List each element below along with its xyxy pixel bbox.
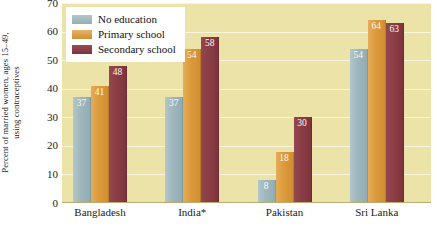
bar: 37: [73, 97, 91, 203]
bar-value-label: 63: [386, 25, 403, 35]
bar-value-label: 41: [91, 88, 108, 98]
legend-item-primary-school: Primary school: [72, 27, 176, 42]
bar: 54: [183, 49, 201, 203]
y-axis-title-container: Percent of married women, ages 15–49, us…: [0, 0, 28, 210]
bar-value-label: 37: [165, 99, 182, 109]
y-axis-title: Percent of married women, ages 15–49, us…: [0, 0, 22, 205]
y-axis-tick-label: 30: [32, 112, 58, 123]
legend-swatch-icon-secondary-school: [72, 45, 92, 54]
y-axis-tick-label: 60: [32, 26, 58, 37]
bar-value-label: 18: [276, 154, 293, 164]
x-axis-label: Pakistan: [235, 206, 335, 218]
bar: 64: [368, 20, 386, 203]
y-axis-tick-labels: 010203040506070: [28, 0, 58, 210]
legend-label-primary-school: Primary school: [98, 29, 165, 40]
bar: 48: [109, 66, 127, 203]
x-axis-label: Bangladesh: [50, 206, 150, 218]
legend-label-secondary-school: Secondary school: [98, 44, 176, 55]
y-axis-title-line-1: Percent of married women, ages 15–49,: [0, 0, 11, 205]
y-axis-tick-label: 20: [32, 140, 58, 151]
y-axis-tick-label: 50: [32, 55, 58, 66]
bar-value-label: 8: [258, 182, 275, 192]
bar-value-label: 37: [73, 99, 90, 109]
x-axis-category-labels: BangladeshIndia*PakistanSri Lanka: [62, 206, 431, 226]
bar: 8: [258, 180, 276, 203]
y-axis-tick-label: 70: [32, 0, 58, 9]
bar: 30: [294, 117, 312, 203]
bar: 41: [91, 86, 109, 203]
bar: 54: [350, 49, 368, 203]
bar-value-label: 30: [294, 119, 311, 129]
legend-swatch-icon-primary-school: [72, 30, 92, 39]
legend-swatch-icon-no-education: [72, 15, 92, 24]
bar-value-label: 54: [183, 51, 200, 61]
bar-value-label: 48: [109, 68, 126, 78]
bar-chart: Percent of married women, ages 15–49, us…: [0, 0, 437, 227]
gridline: [62, 3, 431, 4]
bar-value-label: 54: [350, 51, 367, 61]
y-axis-title-line-2: using contraceptives: [11, 0, 22, 205]
legend-item-no-education: No education: [72, 12, 176, 27]
bar: 63: [386, 23, 404, 203]
x-axis-label: Sri Lanka: [327, 206, 427, 218]
chart-legend: No education Primary school Secondary sc…: [66, 7, 185, 62]
x-axis-label: India*: [142, 206, 242, 218]
bar-value-label: 58: [201, 39, 218, 49]
bar-value-label: 64: [368, 22, 385, 32]
bar: 58: [201, 37, 219, 203]
bar: 37: [165, 97, 183, 203]
bar: 18: [276, 152, 294, 203]
legend-item-secondary-school: Secondary school: [72, 42, 176, 57]
x-axis-line: [62, 202, 431, 203]
y-axis-tick-label: 40: [32, 83, 58, 94]
legend-label-no-education: No education: [98, 14, 157, 25]
y-axis-tick-label: 10: [32, 169, 58, 180]
